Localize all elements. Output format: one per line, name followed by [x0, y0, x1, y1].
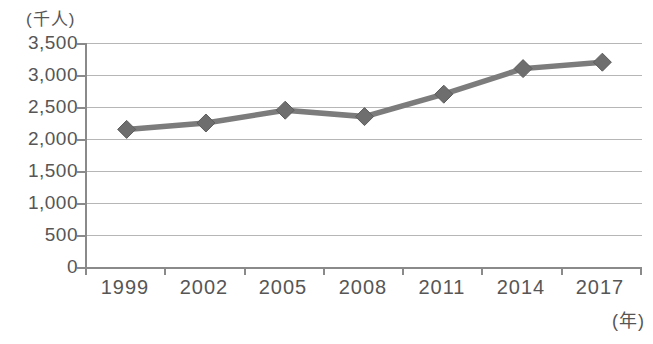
x-tick-label: 2005 — [238, 276, 328, 299]
y-tick-label: 3,500 — [0, 32, 78, 54]
y-tick-label: 1,500 — [0, 160, 78, 182]
x-tick-mark — [85, 268, 87, 275]
data-point-marker — [197, 114, 215, 132]
plot-area — [85, 43, 642, 269]
data-point-marker — [514, 60, 532, 78]
y-tick-label: 0 — [0, 256, 78, 278]
x-tick-label: 2014 — [476, 276, 566, 299]
y-axis-unit-label: (千人) — [26, 5, 75, 30]
data-point-marker — [276, 101, 294, 119]
y-tick-label: 2,000 — [0, 128, 78, 150]
x-tick-mark — [561, 268, 563, 275]
x-axis-unit-label: (年) — [565, 306, 645, 332]
x-tick-mark — [402, 268, 404, 275]
x-tick-label: 2017 — [555, 276, 645, 299]
data-point-marker — [356, 108, 374, 126]
y-tick-label: 2,500 — [0, 96, 78, 118]
x-tick-mark — [323, 268, 325, 275]
line-series — [87, 43, 642, 267]
y-tick-label: 3,000 — [0, 64, 78, 86]
x-tick-mark — [640, 268, 642, 275]
data-point-marker — [593, 53, 611, 71]
data-point-marker — [118, 120, 136, 138]
x-tick-label: 1999 — [80, 276, 170, 299]
data-point-marker — [435, 85, 453, 103]
y-tick-label: 1,000 — [0, 192, 78, 214]
x-tick-mark — [164, 268, 166, 275]
x-tick-label: 2008 — [318, 276, 408, 299]
x-tick-label: 2011 — [397, 276, 487, 299]
x-tick-mark — [244, 268, 246, 275]
line-chart: (千人) 3,5003,0002,5002,0001,5001,0005000 … — [0, 0, 653, 344]
y-tick-label: 500 — [0, 224, 78, 246]
x-tick-mark — [481, 268, 483, 275]
x-tick-label: 2002 — [159, 276, 249, 299]
